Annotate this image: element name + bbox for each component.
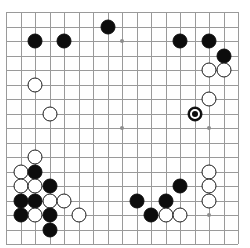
white-stone[interactable] <box>202 193 217 208</box>
star-point <box>207 126 211 130</box>
white-stone[interactable] <box>13 164 28 179</box>
grid-line-horizontal <box>6 244 238 245</box>
white-stone[interactable] <box>71 208 86 223</box>
star-point <box>207 213 211 217</box>
white-stone[interactable] <box>202 92 217 107</box>
black-stone[interactable] <box>28 193 43 208</box>
white-stone[interactable] <box>202 63 217 78</box>
black-stone[interactable] <box>42 222 57 237</box>
grid-line-horizontal <box>6 143 238 144</box>
star-point <box>120 126 124 130</box>
white-stone[interactable] <box>28 77 43 92</box>
black-stone[interactable] <box>57 34 72 49</box>
grid-line-horizontal <box>6 56 238 57</box>
grid-line-horizontal <box>6 230 238 231</box>
black-stone[interactable] <box>173 34 188 49</box>
white-stone[interactable] <box>28 150 43 165</box>
black-stone[interactable] <box>13 193 28 208</box>
grid-line-horizontal <box>6 12 238 13</box>
white-stone[interactable] <box>158 208 173 223</box>
go-goban[interactable] <box>0 0 250 248</box>
white-stone[interactable] <box>42 106 57 121</box>
black-stone[interactable] <box>216 48 231 63</box>
white-stone[interactable] <box>13 179 28 194</box>
white-stone[interactable] <box>28 179 43 194</box>
white-stone[interactable] <box>42 193 57 208</box>
black-stone[interactable] <box>173 179 188 194</box>
black-stone[interactable] <box>13 208 28 223</box>
black-stone[interactable] <box>28 34 43 49</box>
white-stone[interactable] <box>57 193 72 208</box>
black-stone[interactable] <box>202 34 217 49</box>
white-stone[interactable] <box>216 63 231 78</box>
white-stone[interactable] <box>173 208 188 223</box>
black-stone[interactable] <box>42 208 57 223</box>
star-point <box>120 39 124 43</box>
black-stone[interactable] <box>158 193 173 208</box>
grid-line-vertical <box>238 12 239 244</box>
grid-line-horizontal <box>6 114 238 115</box>
go-board-container[interactable] <box>0 0 250 248</box>
grid-line-horizontal <box>6 27 238 28</box>
black-stone[interactable] <box>100 19 115 34</box>
black-stone[interactable] <box>144 208 159 223</box>
white-stone[interactable] <box>202 179 217 194</box>
black-stone[interactable] <box>187 106 202 121</box>
white-stone[interactable] <box>28 208 43 223</box>
black-stone[interactable] <box>129 193 144 208</box>
white-stone[interactable] <box>202 164 217 179</box>
black-stone[interactable] <box>28 164 43 179</box>
black-stone[interactable] <box>42 179 57 194</box>
